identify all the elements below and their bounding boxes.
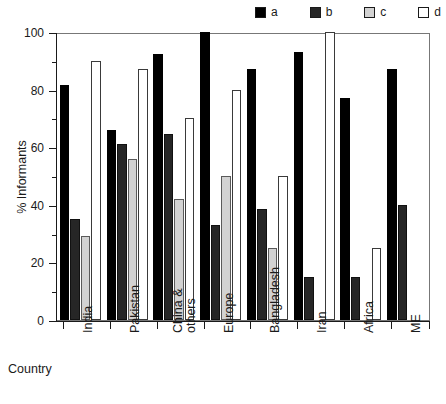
bar-a: [247, 69, 257, 320]
y-axis-tick: [49, 91, 56, 92]
y-axis-minor-tick: [52, 119, 56, 120]
bar-d: [138, 69, 148, 320]
legend-swatch-c: [364, 7, 375, 18]
plot-area: [56, 33, 430, 321]
bar-group: [340, 34, 381, 320]
x-axis-tick: [204, 322, 205, 329]
x-axis-tick: [157, 322, 158, 329]
bar-group: [200, 34, 241, 320]
x-axis-tick: [63, 322, 64, 329]
y-axis-tick-label: 0: [0, 315, 44, 327]
bar-a: [387, 69, 397, 320]
x-axis-title: Country: [8, 362, 52, 376]
y-axis-minor-tick: [52, 235, 56, 236]
y-axis-minor-tick: [52, 62, 56, 63]
bar-a: [107, 130, 117, 320]
x-axis-tick: [250, 322, 251, 329]
legend-swatch-b: [310, 7, 321, 18]
legend-label-a: a: [271, 6, 278, 18]
bar-b: [70, 219, 80, 320]
y-axis-tick: [49, 321, 56, 322]
bar-b: [257, 209, 267, 320]
bar-group: [153, 34, 194, 320]
x-axis-tick: [344, 322, 345, 329]
x-axis-tick-label: China &others: [172, 289, 198, 333]
bar-group: [60, 34, 101, 320]
x-axis-tick: [110, 322, 111, 329]
legend-label-b: b: [326, 6, 333, 18]
y-axis-tick: [49, 33, 56, 34]
y-axis-tick-label: 80: [0, 85, 44, 97]
x-axis-tick-label: Pakistan: [129, 285, 142, 333]
bar-a: [200, 32, 210, 320]
bar-group: [294, 34, 335, 320]
legend-entry-a: a: [255, 6, 278, 18]
x-axis-tick-label: Africa: [363, 301, 376, 333]
legend-swatch-a: [255, 7, 266, 18]
bar-a: [340, 98, 350, 320]
x-axis-tick-label: India: [82, 306, 95, 333]
chart-legend: a b c d: [255, 3, 441, 21]
bar-b: [351, 277, 361, 320]
y-axis-title: % Informants: [15, 117, 29, 237]
bar-chart-figure: a b c d IndiaPakistanChina &othersEurope…: [0, 0, 446, 404]
x-axis-tick: [297, 322, 298, 329]
legend-entry-d: d: [418, 6, 441, 18]
x-axis-tick-label: Bangladesh: [269, 267, 282, 333]
bar-group: [107, 34, 148, 320]
legend-label-c: c: [380, 6, 386, 18]
x-axis-tick-label: Iran: [316, 311, 329, 333]
bar-d: [91, 61, 101, 320]
bar-a: [294, 52, 304, 320]
bar-group: [387, 34, 428, 320]
bar-a: [153, 54, 163, 320]
x-axis-tick-label: Europe: [223, 293, 236, 333]
bars-layer: [57, 34, 429, 320]
bar-b: [304, 277, 314, 320]
legend-entry-c: c: [364, 6, 386, 18]
bar-b: [117, 144, 127, 320]
y-axis-tick: [49, 206, 56, 207]
bar-b: [398, 205, 408, 320]
bar-a: [60, 85, 70, 320]
y-axis-tick-label: 100: [0, 27, 44, 39]
bar-d: [325, 32, 335, 320]
x-axis-tick: [391, 322, 392, 329]
x-axis-tick: [429, 322, 430, 329]
y-axis-minor-tick: [52, 292, 56, 293]
y-axis-tick-label: 20: [0, 257, 44, 269]
legend-entry-b: b: [310, 6, 333, 18]
x-axis-tick-label: ME: [410, 314, 423, 333]
bar-b: [211, 225, 221, 320]
bar-d: [232, 90, 242, 320]
y-axis-tick: [49, 148, 56, 149]
y-axis-line: [56, 33, 57, 321]
legend-swatch-d: [418, 7, 429, 18]
y-axis-tick: [49, 263, 56, 264]
legend-label-d: d: [434, 6, 441, 18]
y-axis-minor-tick: [52, 177, 56, 178]
